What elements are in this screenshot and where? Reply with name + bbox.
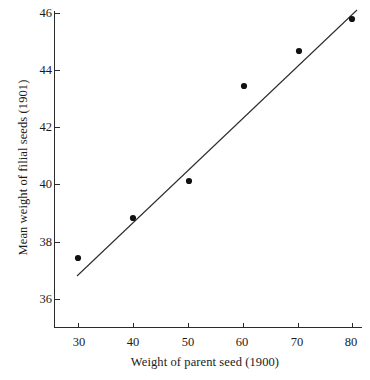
data-point [186,178,192,184]
data-point [296,48,302,54]
regression-trendline [77,10,357,276]
data-point [75,255,81,261]
plot-area [0,0,370,380]
data-point [130,215,136,221]
scatter-plot-figure: Mean weight of filial seeds (1901) Weigh… [0,0,370,380]
x-axis-ticks [79,323,353,328]
y-axis-ticks [55,14,60,300]
data-point [349,16,355,22]
data-points [75,16,355,261]
data-point [241,83,247,89]
